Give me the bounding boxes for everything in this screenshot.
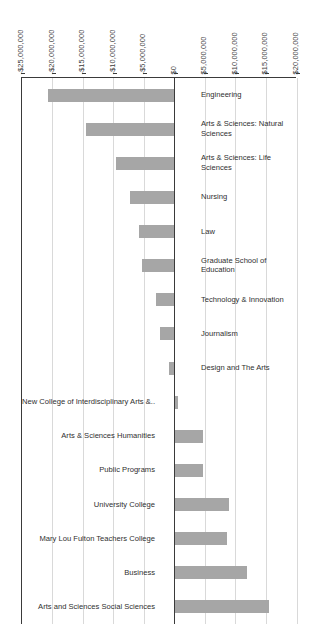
bar-row: Public Programs	[22, 453, 296, 487]
x-axis-tick-label: $20,000,000	[292, 32, 299, 74]
bar[interactable]	[175, 430, 204, 443]
category-label: Arts & Sciences: Life Sciences	[201, 154, 296, 173]
x-axis-tick-label: -$10,000,000	[108, 29, 115, 74]
bar[interactable]	[175, 532, 228, 545]
x-axis-tick-label-group: -$25,000,000-$20,000,000-$15,000,000-$10…	[0, 0, 317, 78]
bar-row: Design and The Arts	[22, 351, 296, 385]
x-axis-tick-mark	[174, 73, 178, 74]
category-label: New College of Interdisciplinary Arts &.…	[22, 397, 155, 407]
category-label: Law	[201, 227, 215, 237]
category-label: Arts and Sciences Social Sciences	[38, 602, 155, 612]
bar-row: Arts & Sciences Humanities	[22, 419, 296, 453]
x-axis-tick-label: -$25,000,000	[17, 29, 24, 74]
x-axis-tick-label: -$20,000,000	[47, 29, 54, 74]
bar[interactable]	[175, 600, 270, 613]
bar-row: Journalism	[22, 317, 296, 351]
bar-row: Arts & Sciences: Natural Sciences	[22, 112, 296, 146]
zero-axis-line	[174, 78, 175, 624]
category-label: Business	[124, 568, 155, 578]
bar[interactable]	[175, 566, 248, 579]
gridline	[297, 78, 298, 624]
x-axis-tick-label: $15,000,000	[261, 32, 268, 74]
x-axis-tick-mark	[143, 73, 147, 74]
bar[interactable]	[142, 259, 174, 272]
bar-row: Graduate School of Education	[22, 249, 296, 283]
x-axis-tick-label: -$15,000,000	[78, 29, 85, 74]
bar[interactable]	[48, 89, 175, 102]
category-label: University College	[94, 500, 155, 510]
bar[interactable]	[86, 123, 175, 136]
category-label: Engineering	[201, 90, 242, 100]
x-axis-tick-label: $10,000,000	[230, 32, 237, 74]
bar[interactable]	[175, 498, 229, 511]
bar-row: University College	[22, 488, 296, 522]
bar-chart: -$25,000,000-$20,000,000-$15,000,000-$10…	[0, 0, 317, 640]
x-axis-tick-mark	[82, 73, 86, 74]
x-axis-tick-mark	[113, 73, 117, 74]
x-axis-tick-mark	[296, 73, 300, 74]
category-label: Arts & Sciences: Natural Sciences	[201, 120, 296, 139]
category-label: Nursing	[201, 193, 227, 203]
x-axis-tick-mark	[235, 73, 239, 74]
x-axis-tick-mark	[265, 73, 269, 74]
plot-area: EngineeringArts & Sciences: Natural Scie…	[21, 78, 296, 624]
x-axis-tick-label: -$5,000,000	[139, 33, 146, 74]
bar-row: Arts and Sciences Social Sciences	[22, 590, 296, 624]
category-label: Mary Lou Fulton Teachers College	[39, 534, 155, 544]
bar[interactable]	[116, 157, 175, 170]
bar-row: Arts & Sciences: Life Sciences	[22, 146, 296, 180]
bar[interactable]	[156, 293, 175, 306]
bar-row: New College of Interdisciplinary Arts &.…	[22, 385, 296, 419]
x-axis-tick-mark	[204, 73, 208, 74]
x-axis-tick-mark	[52, 73, 56, 74]
bar-row: Mary Lou Fulton Teachers College	[22, 522, 296, 556]
bar[interactable]	[130, 191, 175, 204]
bar[interactable]	[160, 327, 175, 340]
x-axis-tick-mark	[21, 73, 25, 74]
bar-row: Technology & Innovation	[22, 283, 296, 317]
category-label: Public Programs	[99, 466, 155, 476]
bar-row-group: EngineeringArts & Sciences: Natural Scie…	[22, 78, 296, 624]
category-label: Arts & Sciences Humanities	[61, 432, 155, 442]
bar-row: Engineering	[22, 78, 296, 112]
bar-row: Law	[22, 215, 296, 249]
category-label: Journalism	[201, 329, 238, 339]
category-label: Technology & Innovation	[201, 295, 284, 305]
bar-row: Nursing	[22, 180, 296, 214]
bar-row: Business	[22, 556, 296, 590]
category-label: Graduate School of Education	[201, 256, 296, 275]
bar[interactable]	[175, 464, 204, 477]
bar[interactable]	[139, 225, 174, 238]
category-label: Design and The Arts	[201, 363, 270, 373]
x-axis-tick-label: $5,000,000	[200, 36, 207, 74]
